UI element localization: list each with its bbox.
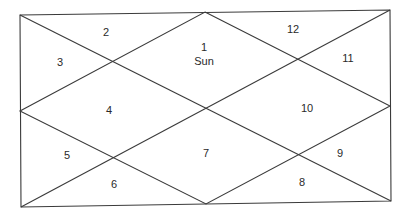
- house-6-label: 6: [111, 179, 117, 190]
- house-8-label: 8: [299, 177, 305, 188]
- house-11-label: 11: [342, 53, 353, 64]
- house-10-label: 10: [301, 103, 313, 114]
- house-2-label: 2: [103, 27, 109, 38]
- house-1-label: 1: [201, 42, 207, 53]
- house-1-planet-sun: Sun: [194, 56, 214, 67]
- house-12-label: 12: [287, 24, 299, 35]
- house-5-label: 5: [64, 150, 70, 161]
- house-9-label: 9: [337, 148, 343, 159]
- house-4-label: 4: [106, 105, 112, 116]
- house-7-label: 7: [203, 148, 209, 159]
- horoscope-chart-frame: [0, 0, 410, 215]
- house-3-label: 3: [57, 57, 63, 68]
